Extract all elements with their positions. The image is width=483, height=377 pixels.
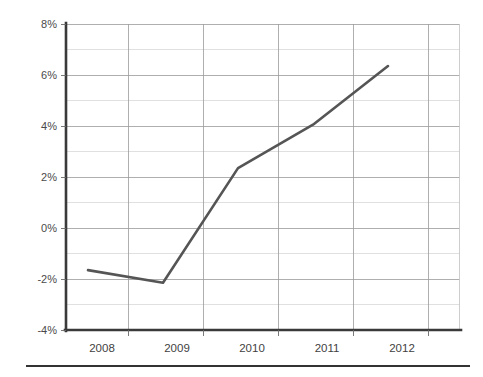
x-tick-label: 2011	[315, 342, 340, 354]
line-chart: 8% 6% 4% 2% 0% -2% -4% 2008 2009 2010 20…	[0, 0, 483, 377]
x-tick-label: 2008	[89, 342, 115, 354]
y-tick-label: 6%	[41, 69, 57, 81]
x-tick-label: 2009	[164, 342, 190, 354]
y-tick-label: 0%	[41, 222, 57, 234]
x-tick-label: 2010	[239, 342, 265, 354]
x-tick-label: 2012	[389, 342, 415, 354]
chart-background	[0, 0, 483, 377]
y-tick-label: 2%	[41, 171, 57, 183]
y-tick-label: 4%	[41, 120, 57, 132]
chart-figure: 8% 6% 4% 2% 0% -2% -4% 2008 2009 2010 20…	[0, 0, 483, 377]
y-tick-label: 8%	[41, 18, 57, 30]
y-tick-label: -2%	[37, 273, 57, 285]
y-tick-label: -4%	[37, 324, 57, 336]
